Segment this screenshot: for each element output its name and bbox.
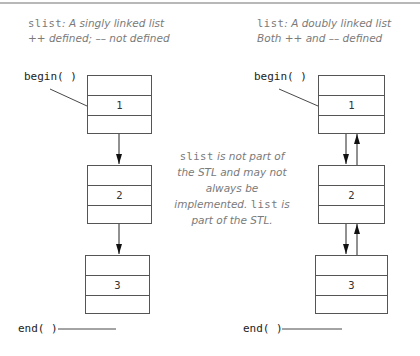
slist-node-3: 3 <box>85 255 150 314</box>
node-link-field <box>319 206 384 225</box>
slist-begin-pointer <box>50 89 87 106</box>
slist-end-label: end( ) <box>18 322 58 335</box>
node-value: 2 <box>319 186 384 206</box>
node-value: 1 <box>319 96 384 116</box>
node-link-field <box>88 206 151 225</box>
node-link-field <box>88 116 151 135</box>
node-link-field <box>316 296 387 315</box>
list-node-2: 2 <box>318 165 385 224</box>
slist-node-2: 2 <box>87 165 152 224</box>
node-value: 1 <box>88 96 151 116</box>
arrowhead-up-icon <box>354 224 360 234</box>
arrowhead-up-icon <box>354 134 360 144</box>
list-end-label: end( ) <box>243 322 283 335</box>
node-link-field <box>88 166 151 186</box>
node-link-field <box>86 256 149 276</box>
node-link-field <box>88 76 151 96</box>
node-value: 3 <box>86 276 149 296</box>
node-value: 3 <box>316 276 387 296</box>
node-link-field <box>316 256 387 276</box>
arrowhead-down-icon <box>116 244 122 254</box>
slist-node-1: 1 <box>87 75 152 134</box>
list-node-3: 3 <box>315 255 388 314</box>
slist-begin-label: begin( ) <box>24 70 77 83</box>
node-link-field <box>319 76 384 96</box>
list-begin-label: begin( ) <box>254 70 307 83</box>
node-value: 2 <box>88 186 151 206</box>
arrowhead-down-icon <box>343 244 349 254</box>
list-node-1: 1 <box>318 75 385 134</box>
node-link-field <box>319 166 384 186</box>
node-link-field <box>86 296 149 315</box>
node-link-field <box>319 116 384 135</box>
list-begin-pointer <box>279 89 318 106</box>
arrowhead-down-icon <box>116 154 122 164</box>
arrowhead-down-icon <box>343 154 349 164</box>
